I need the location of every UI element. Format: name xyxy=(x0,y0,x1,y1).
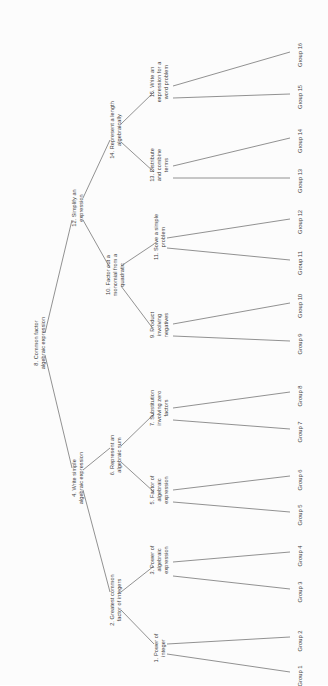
tree-leaf-label: Group 3 xyxy=(297,582,303,603)
tree-leaf-g3[interactable]: Group 3 xyxy=(297,582,304,603)
tree-leaf-label: Group 10 xyxy=(297,294,303,318)
tree-node-n3[interactable]: 3. Power ofalgebraicexpression xyxy=(149,546,171,575)
tree-leaf-label: Group 12 xyxy=(297,210,303,234)
tree-leaf-g7[interactable]: Group 7 xyxy=(297,422,304,443)
tree-leaf-g15[interactable]: Group 15 xyxy=(297,85,304,109)
tree-leaf-label: Group 4 xyxy=(297,546,303,567)
tree-node-n9[interactable]: 9. Productinvolvingnegatives xyxy=(149,312,171,338)
tree-node-label: 8. Common factoralgebraic expression xyxy=(33,317,47,369)
tree-edge xyxy=(83,490,110,592)
tree-leaf-g13[interactable]: Group 13 xyxy=(297,169,304,193)
tree-leaf-label: Group 9 xyxy=(297,334,303,355)
tree-node-label: 12. Simplify anexpression xyxy=(71,189,85,226)
tree-edge xyxy=(173,52,290,86)
tree-leaf-label: Group 5 xyxy=(297,505,303,526)
tree-node-n10[interactable]: 10. Factor out amonomial from aquadratic xyxy=(105,254,127,296)
tree-edge xyxy=(173,502,290,512)
tree-leaf-g16[interactable]: Group 16 xyxy=(297,43,304,67)
tree-edge xyxy=(167,219,290,238)
tree-leaf-g4[interactable]: Group 4 xyxy=(297,546,304,567)
tree-leaf-g12[interactable]: Group 12 xyxy=(297,210,304,234)
tree-node-label: 15. Write anexpression for aword problem xyxy=(149,62,171,103)
tree-leaf-label: Group 16 xyxy=(297,43,303,67)
tree-node-n12[interactable]: 12. Simplify anexpression xyxy=(71,189,85,226)
tree-edge xyxy=(83,140,110,198)
tree-edge xyxy=(173,552,290,562)
tree-node-n13[interactable]: 13. Distributeand combineterms xyxy=(149,148,171,182)
tree-edge xyxy=(173,303,290,324)
tree-leaf-g10[interactable]: Group 10 xyxy=(297,294,304,318)
tree-edge xyxy=(167,248,290,260)
tree-edge xyxy=(167,654,290,672)
tree-edge xyxy=(173,420,290,429)
tree-node-label: 9. Productinvolvingnegatives xyxy=(149,312,171,338)
tree-edge xyxy=(121,610,154,644)
tree-node-n7[interactable]: 7. Substitutioninvolving zerofactors xyxy=(149,390,171,426)
tree-node-n15[interactable]: 15. Write anexpression for aword problem xyxy=(149,62,171,103)
tree-node-label: 5. Factor ofalgebraicexpression xyxy=(149,476,171,505)
tree-node-label: 2. Greatest commonfactor of integers xyxy=(109,574,123,626)
tree-leaf-g6[interactable]: Group 6 xyxy=(297,470,304,491)
tree-leaf-g5[interactable]: Group 5 xyxy=(297,505,304,526)
tree-leaf-label: Group 15 xyxy=(297,85,303,109)
tree-edge xyxy=(173,138,290,166)
tree-node-label: 11. Solve a simpleproblem xyxy=(153,214,167,260)
tree-leaf-label: Group 1 xyxy=(297,666,303,686)
tree-leaf-label: Group 13 xyxy=(297,169,303,193)
tree-node-label: 6. Represent analgebraic sum xyxy=(109,435,123,476)
tree-leaf-label: Group 11 xyxy=(297,251,303,275)
tree-leaf-g2[interactable]: Group 2 xyxy=(297,631,304,652)
tree-edge xyxy=(173,94,290,98)
tree-node-n14[interactable]: 14. Represent a lengthalgebraically xyxy=(109,101,123,159)
tree-leaf-label: Group 2 xyxy=(297,631,303,652)
tree-leaf-g9[interactable]: Group 9 xyxy=(297,334,304,355)
tree-node-label: 13. Distributeand combineterms xyxy=(149,148,171,182)
tree-node-n2[interactable]: 2. Greatest commonfactor of integers xyxy=(109,574,123,626)
tree-edge xyxy=(45,355,72,468)
tree-leaf-g11[interactable]: Group 11 xyxy=(297,251,304,275)
tree-node-n5[interactable]: 5. Factor ofalgebraicexpression xyxy=(149,476,171,505)
tree-edge xyxy=(167,637,290,644)
tree-node-n11[interactable]: 11. Solve a simpleproblem xyxy=(153,214,167,260)
tree-leaf-label: Group 7 xyxy=(297,422,303,443)
tree-edge xyxy=(83,448,110,470)
tree-edge xyxy=(173,336,290,341)
tree-node-label: 10. Factor out amonomial from aquadratic xyxy=(105,254,127,296)
tree-node-n1[interactable]: 1. Power ofinteger xyxy=(153,634,167,663)
tree-edge xyxy=(45,220,72,333)
tree-leaf-label: Group 6 xyxy=(297,470,303,491)
tree-leaf-label: Group 14 xyxy=(297,129,303,153)
tree-node-n4[interactable]: 4. Write simplealgebraic expression xyxy=(71,452,85,504)
tree-leaf-g1[interactable]: Group 1 xyxy=(297,666,304,686)
tree-node-label: 1. Power ofinteger xyxy=(153,634,167,663)
tree-edge xyxy=(173,476,290,490)
tree-node-n6[interactable]: 6. Represent analgebraic sum xyxy=(109,435,123,476)
tree-node-label: 14. Represent a lengthalgebraically xyxy=(109,101,123,159)
tree-node-n8[interactable]: 8. Common factoralgebraic expression xyxy=(33,317,47,369)
tree-node-label: 7. Substitutioninvolving zerofactors xyxy=(149,390,171,426)
tree-edge xyxy=(173,576,290,589)
tree-edge xyxy=(173,392,290,408)
tree-leaf-g8[interactable]: Group 8 xyxy=(297,386,304,407)
tree-node-label: 4. Write simplealgebraic expression xyxy=(71,452,85,504)
tree-leaf-label: Group 8 xyxy=(297,386,303,407)
tree-node-label: 3. Power ofalgebraicexpression xyxy=(149,546,171,575)
tree-leaf-g14[interactable]: Group 14 xyxy=(297,129,304,153)
